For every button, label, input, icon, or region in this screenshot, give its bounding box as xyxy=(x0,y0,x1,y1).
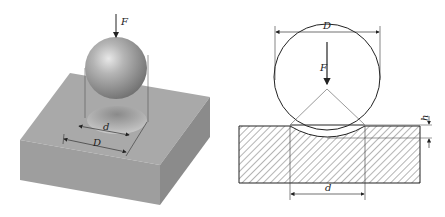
label-F-left: F xyxy=(120,16,129,27)
label-h: h xyxy=(419,115,430,121)
label-D-right: D xyxy=(322,20,331,31)
brinell-hardness-diagram: d D F F D d xyxy=(0,0,445,217)
label-D-left: D xyxy=(92,137,101,148)
specimen-section xyxy=(239,126,420,183)
right-section-view: F D d h xyxy=(239,20,432,200)
label-d-right: d xyxy=(325,182,331,193)
indent-dimple xyxy=(87,106,147,134)
label-F-right: F xyxy=(319,62,328,73)
left-3d-view: d D F xyxy=(20,14,210,205)
indenter-sphere xyxy=(85,37,147,99)
label-d-left: d xyxy=(103,121,109,132)
